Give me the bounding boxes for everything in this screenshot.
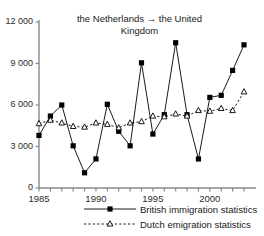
data-point	[196, 156, 201, 161]
y-tick-label: 6 000	[0, 99, 33, 109]
data-point	[82, 170, 87, 175]
data-point	[105, 102, 110, 107]
x-tick-label: 1990	[76, 193, 116, 204]
legend-marker-triangle	[107, 221, 113, 226]
data-point	[219, 93, 224, 98]
data-point	[59, 102, 64, 107]
data-point	[93, 120, 99, 125]
y-tick-label: 3 000	[0, 141, 33, 151]
data-point	[71, 143, 76, 148]
data-point	[59, 120, 65, 125]
chart-figure: the Netherlands → the United Kingdom 03 …	[0, 0, 264, 236]
data-point	[207, 95, 212, 100]
data-point	[128, 143, 133, 148]
data-point	[150, 131, 155, 136]
x-tick-label: 1995	[133, 193, 173, 204]
data-point	[105, 121, 111, 126]
data-point	[173, 111, 179, 116]
data-point	[241, 89, 247, 94]
legend-label-dutch: Dutch emigration statistics	[140, 219, 251, 230]
data-point	[241, 42, 246, 47]
legend-label-british: British immigration statistics	[140, 204, 257, 215]
data-point	[139, 118, 145, 123]
data-point	[150, 113, 156, 118]
data-point	[196, 107, 202, 112]
data-point	[173, 40, 178, 45]
data-point	[70, 123, 76, 128]
y-tick-label: 9 000	[0, 58, 33, 68]
data-point	[230, 68, 235, 73]
x-tick-label: 2000	[190, 193, 230, 204]
data-point	[218, 105, 224, 110]
x-tick-label: 1985	[19, 193, 59, 204]
data-point	[139, 60, 144, 65]
legend-marker-square	[107, 206, 112, 211]
data-point	[36, 133, 41, 138]
y-tick-label: 0	[0, 182, 33, 192]
y-tick-label: 12 000	[0, 16, 33, 26]
data-point	[93, 156, 98, 161]
